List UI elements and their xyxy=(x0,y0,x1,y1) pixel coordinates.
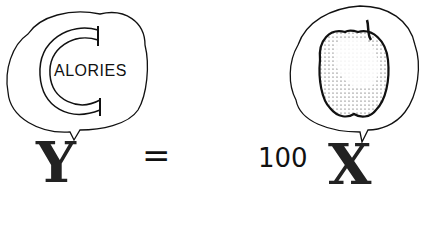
variable-x: X xyxy=(328,136,371,190)
calories-label: ALORIES xyxy=(54,62,127,80)
coefficient: 100 xyxy=(258,143,308,173)
variable-y: Y xyxy=(36,134,76,190)
equals-sign: = xyxy=(142,138,171,172)
